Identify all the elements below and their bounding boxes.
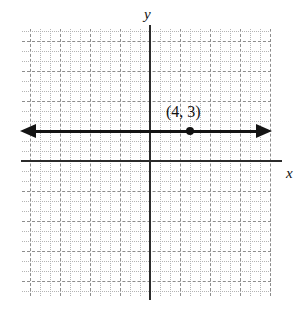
- grid-area: [22, 29, 271, 296]
- grid-line-horizontal: [22, 141, 271, 142]
- grid-line-horizontal: [22, 231, 271, 232]
- grid-line-horizontal: [22, 251, 271, 252]
- horizontal-line-y-equals-3: [34, 130, 258, 133]
- grid-line-vertical: [270, 29, 271, 296]
- right-arrowhead-icon: [256, 124, 272, 138]
- grid-line-vertical: [170, 29, 171, 296]
- grid-line-horizontal: [22, 191, 271, 192]
- grid-line-horizontal: [22, 51, 271, 52]
- grid-line-vertical: [140, 29, 141, 296]
- grid-line-vertical: [130, 29, 131, 296]
- y-axis: [149, 25, 151, 300]
- grid-line-horizontal: [22, 291, 271, 292]
- grid-line-horizontal: [22, 61, 271, 62]
- grid-line-horizontal: [22, 31, 271, 32]
- plotted-point-label: (4, 3): [166, 104, 201, 120]
- grid-line-vertical: [200, 29, 201, 296]
- grid-line-horizontal: [22, 181, 271, 182]
- grid-line-vertical: [40, 29, 41, 296]
- grid-line-horizontal: [22, 241, 271, 242]
- grid-line-horizontal: [22, 91, 271, 92]
- grid-line-vertical: [180, 29, 181, 296]
- grid-line-horizontal: [22, 211, 271, 212]
- coordinate-plane-figure: y x (4, 3): [0, 0, 294, 317]
- x-axis-label: x: [286, 166, 293, 181]
- grid-line-vertical: [190, 29, 191, 296]
- grid-line-vertical: [80, 29, 81, 296]
- grid-line-vertical: [250, 29, 251, 296]
- grid-line-vertical: [50, 29, 51, 296]
- grid-line-vertical: [120, 29, 121, 296]
- y-axis-label: y: [144, 7, 151, 22]
- grid-line-vertical: [70, 29, 71, 296]
- grid-line-vertical: [160, 29, 161, 296]
- grid-line-vertical: [30, 29, 31, 296]
- grid-line-vertical: [260, 29, 261, 296]
- grid-line-horizontal: [22, 101, 271, 102]
- grid-line-vertical: [230, 29, 231, 296]
- grid-line-horizontal: [22, 221, 271, 222]
- plotted-point-marker: [186, 127, 194, 135]
- grid-line-vertical: [90, 29, 91, 296]
- grid-line-vertical: [110, 29, 111, 296]
- grid-line-vertical: [210, 29, 211, 296]
- grid-line-horizontal: [22, 81, 271, 82]
- grid-line-horizontal: [22, 271, 271, 272]
- grid-line-horizontal: [22, 201, 271, 202]
- grid-line-vertical: [100, 29, 101, 296]
- grid-line-horizontal: [22, 261, 271, 262]
- grid-line-horizontal: [22, 111, 271, 112]
- grid-line-horizontal: [22, 281, 271, 282]
- grid-line-vertical: [220, 29, 221, 296]
- grid-line-vertical: [60, 29, 61, 296]
- grid-line-horizontal: [22, 41, 271, 42]
- grid-line-horizontal: [22, 171, 271, 172]
- left-arrowhead-icon: [20, 124, 36, 138]
- x-axis: [21, 160, 282, 162]
- grid-line-horizontal: [22, 151, 271, 152]
- grid-line-horizontal: [22, 71, 271, 72]
- grid-line-horizontal: [22, 121, 271, 122]
- grid-line-vertical: [240, 29, 241, 296]
